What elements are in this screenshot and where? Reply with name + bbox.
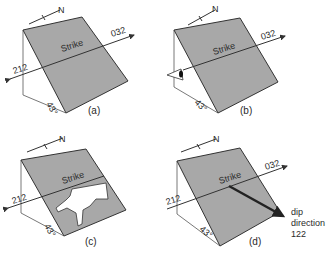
dip-angle-label: 43° [44,100,60,117]
north-arrow-icon: N [188,4,219,25]
dip-direction-value: 122 [291,229,306,239]
dip-direction-label: direction [291,218,325,228]
bearing-032: 032 [264,158,281,172]
north-arrow-icon: N [29,5,65,24]
north-label: N [212,4,219,14]
north-label: N [59,134,66,144]
panel-c: N Strike 212 43° (c) [8,134,126,247]
strike-dip-diagram: N Strike 032 212 43° (a) N Strike 032 43… [0,0,334,256]
panel-a: N Strike 032 212 43° (a) [10,5,134,117]
panel-label: (b) [240,105,252,116]
bearing-212: 212 [11,192,28,206]
north-arrow-icon: N [181,134,220,152]
north-label: N [213,134,220,144]
panel-b: N Strike 032 43° (b) [167,4,285,116]
dip-direction-label: dip [291,207,303,217]
north-arrow-icon: N [27,134,66,152]
bearing-032: 032 [110,25,127,39]
dip-angle-label: 43° [42,222,58,239]
panel-d: N Strike 032 212 43° dip direction 122 (… [165,134,326,247]
bearing-212: 212 [12,62,29,76]
north-label: N [58,5,65,15]
panel-label: (a) [88,105,100,116]
panel-label: (c) [85,236,97,247]
panel-label: (d) [249,236,261,247]
eye-icon [167,69,183,80]
